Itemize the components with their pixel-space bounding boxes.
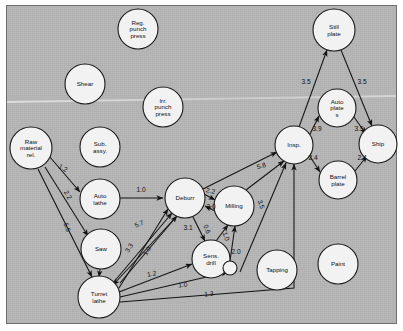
- node-raw_material[interactable]: Rawmaterialrel.: [10, 127, 52, 169]
- edge-weight-turret_lathe-to-deburr: 3.3: [123, 242, 134, 254]
- edge-weight-auto_lathe-to-deburr: 1.0: [136, 186, 145, 193]
- small-node-circle: [223, 261, 237, 275]
- edge-weight-milling-to-insp: 3.5: [257, 199, 267, 210]
- node-label: Tapping: [266, 266, 288, 273]
- node-label: Insp.: [287, 141, 301, 148]
- edge-weight-deburr-to-turret_lathe: 3.1: [183, 224, 192, 231]
- edge-weight-sens_drill-to-milling: 1.0: [222, 231, 232, 242]
- network-graph: Reg.punchpressShearIrr.punchpressRawmate…: [0, 0, 403, 331]
- node-label: Ship: [372, 140, 385, 147]
- edge-weight-deburr-to-sens_drill: 0.6: [202, 224, 212, 235]
- node-label: Saw: [95, 245, 108, 252]
- edge-weight-turret_lathe-to-sens_drill: 1.2: [146, 269, 157, 278]
- node-barrel_plate[interactable]: Barrelplate: [319, 161, 357, 199]
- edge-deburr-to-insp: [203, 152, 277, 189]
- node-label: Paint: [331, 260, 345, 267]
- edge-deburr-to-sens-drill: [193, 217, 205, 241]
- edge-weight-deburr-to-insp: 5.8: [256, 161, 267, 170]
- edge-weight-turret_lathe-to-deburr: 5.7: [134, 219, 145, 229]
- node-label: lathe: [93, 199, 107, 206]
- edge-weight-turret_lathe-to-sens_drill: 1.0: [178, 280, 188, 288]
- network-diagram-figure: Reg.punchpressShearIrr.punchpressRawmate…: [0, 0, 403, 331]
- node-sub_assy[interactable]: Sub.assy.: [80, 127, 120, 167]
- node-label: Milling: [225, 202, 243, 209]
- edge-deburr-to-milling: [204, 194, 215, 200]
- node-label: plate: [331, 180, 345, 187]
- edge-weight-milling-to-deburr: 3.0: [206, 203, 215, 210]
- node-irr_punch[interactable]: Irr.punchpress: [143, 87, 183, 127]
- node-label: Shear: [77, 80, 94, 87]
- node-label: assy.: [93, 147, 107, 154]
- node-saw[interactable]: Saw: [81, 229, 121, 269]
- node-small-node[interactable]: [223, 261, 237, 275]
- node-still_plate[interactable]: Stillplate: [313, 9, 355, 51]
- edge-weight-barrel_plate-to-ship: 2.4: [357, 154, 366, 161]
- node-label: press: [155, 110, 170, 117]
- node-layer: Reg.punchpressShearIrr.punchpressRawmate…: [10, 9, 397, 318]
- edge-weight-insp-to-still_plate: 3.5: [301, 78, 310, 85]
- node-label: press: [130, 32, 145, 39]
- node-insp[interactable]: Insp.: [275, 126, 313, 164]
- edge-weight-still_plate-to-ship: 3.5: [357, 78, 366, 85]
- node-milling[interactable]: Milling: [214, 186, 254, 226]
- edge-weight-deburr-to-milling: 2.2: [205, 186, 216, 195]
- node-auto_plate[interactable]: Autoplates: [318, 89, 356, 127]
- edge-raw-to-auto-lathe: [49, 156, 80, 192]
- node-shear[interactable]: Shear: [65, 64, 105, 104]
- edge-weight-turret_lathe-to-insp: 1.3: [204, 290, 214, 298]
- edge-weight-sens_drill-to-small_node: 2.0: [231, 248, 240, 255]
- node-auto_lathe[interactable]: Autolathe: [80, 179, 120, 219]
- node-label: s: [335, 111, 338, 118]
- node-reg_punch[interactable]: Reg.punchpress: [118, 9, 158, 49]
- node-paint[interactable]: Paint: [318, 244, 358, 284]
- node-deburr[interactable]: Deburr: [165, 178, 205, 218]
- edge-weight-insp-to-barrel_plate: 2.4: [308, 154, 317, 161]
- node-label: plate: [327, 30, 341, 37]
- node-label: drill: [206, 259, 216, 266]
- edge-weight-insp-to-auto_plate: 3.9: [312, 125, 321, 132]
- node-label: rel.: [27, 151, 36, 158]
- edge-small-node-to-milling: [230, 226, 235, 261]
- edge-weight-auto_plate-to-ship: 3.9: [354, 125, 363, 132]
- node-tapping[interactable]: Tapping: [257, 250, 297, 290]
- edge-weight-raw_material-to-turret_lathe: 5.5: [62, 222, 72, 233]
- edge-weight-raw_material-to-auto_lathe: 1.2: [57, 163, 69, 174]
- node-label: lathe: [92, 297, 106, 304]
- node-turret_lathe[interactable]: Turretlathe: [78, 276, 120, 318]
- node-label: Deburr: [176, 194, 195, 201]
